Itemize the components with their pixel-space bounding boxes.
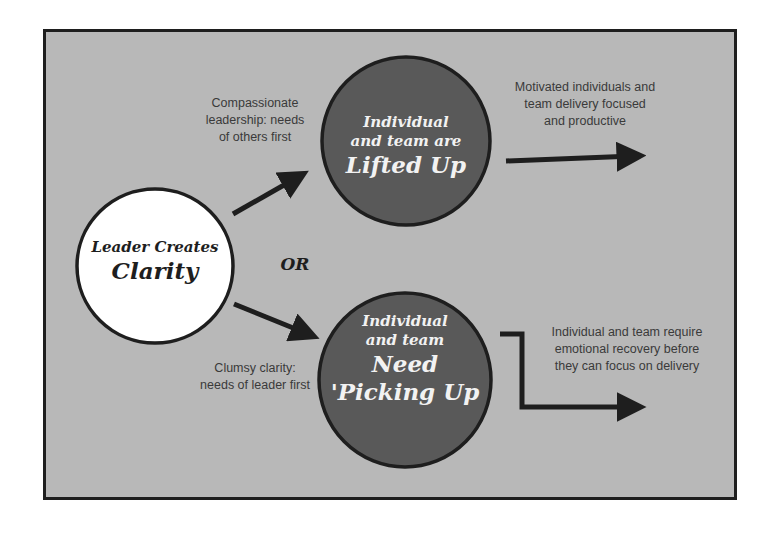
source-node-line2: Clarity: [80, 257, 230, 285]
top-edge-label: Compassionate leadership: needs of other…: [190, 95, 320, 146]
source-node-label: Leader Creates Clarity: [80, 238, 230, 285]
bottom-outcome-node-label: Individual and team Need 'Picking Up: [325, 312, 485, 406]
source-node-line1: Leader Creates: [80, 238, 230, 257]
bottom-outcome-description: Individual and team require emotional re…: [532, 324, 722, 375]
top-outcome-node-label: Individual and team are Lifted Up: [330, 113, 482, 179]
diagram-canvas: Leader Creates Clarity OR Compassionate …: [0, 0, 779, 540]
bottom-edge-label: Clumsy clarity: needs of leader first: [185, 360, 325, 394]
or-separator: OR: [275, 254, 315, 274]
arrow-to-top-node: [233, 177, 298, 214]
arrow-to-bottom-node: [234, 304, 308, 334]
arrow-top-outcome: [506, 156, 634, 161]
top-outcome-description: Motivated individuals and team delivery …: [495, 79, 675, 130]
